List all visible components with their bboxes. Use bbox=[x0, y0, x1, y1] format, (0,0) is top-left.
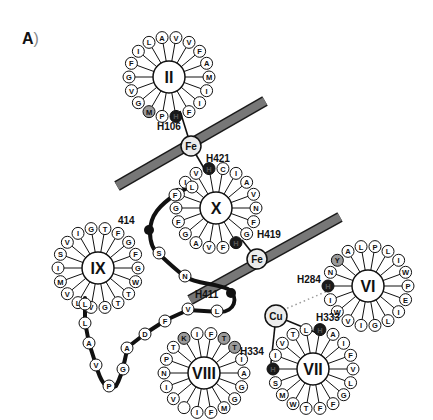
svg-text:L: L bbox=[386, 247, 391, 256]
residue: G bbox=[170, 202, 182, 214]
residue: I bbox=[72, 227, 84, 239]
residue: G bbox=[236, 381, 248, 393]
residue: G bbox=[241, 228, 253, 240]
svg-text:A: A bbox=[241, 369, 247, 378]
svg-text:D: D bbox=[142, 330, 148, 339]
svg-text:V: V bbox=[171, 395, 176, 404]
residue: G bbox=[99, 301, 111, 313]
svg-text:G: G bbox=[372, 321, 378, 330]
residue: N bbox=[158, 367, 170, 379]
svg-text:S: S bbox=[58, 250, 63, 259]
loop-residue: V bbox=[90, 359, 102, 371]
svg-text:F: F bbox=[173, 191, 178, 200]
residue: F bbox=[205, 406, 217, 418]
residue: G bbox=[132, 262, 144, 274]
svg-text:T: T bbox=[291, 330, 296, 339]
residue: V bbox=[276, 337, 288, 349]
label-h411: H411 bbox=[195, 289, 219, 300]
svg-text:Fe: Fe bbox=[251, 254, 263, 265]
svg-text:P: P bbox=[405, 282, 410, 291]
svg-text:L: L bbox=[386, 317, 391, 326]
svg-text:Fe: Fe bbox=[185, 141, 197, 152]
loop-residue: L bbox=[186, 181, 198, 193]
residue: T bbox=[112, 297, 124, 309]
residue: I bbox=[191, 328, 203, 340]
svg-text:V: V bbox=[350, 365, 355, 374]
residue: W bbox=[400, 266, 412, 278]
svg-text:H: H bbox=[206, 165, 211, 174]
svg-text:V: V bbox=[185, 305, 190, 314]
svg-text:F: F bbox=[197, 47, 202, 56]
residue: I bbox=[393, 254, 405, 266]
residue: N bbox=[324, 266, 336, 278]
svg-text:G: G bbox=[88, 225, 94, 234]
svg-text:V: V bbox=[280, 339, 285, 348]
label-r414: 414 bbox=[118, 215, 135, 226]
residue: L bbox=[300, 324, 312, 336]
svg-text:L: L bbox=[304, 326, 309, 335]
residue: T bbox=[229, 341, 241, 353]
svg-text:F: F bbox=[129, 59, 134, 68]
residue: F bbox=[172, 216, 184, 228]
residue: M bbox=[143, 106, 155, 118]
svg-text:T: T bbox=[232, 343, 237, 352]
residue: I bbox=[230, 167, 242, 179]
svg-text:A: A bbox=[124, 344, 130, 353]
residue: F bbox=[183, 106, 195, 118]
residue bbox=[178, 402, 190, 414]
label-h334: H334 bbox=[240, 346, 264, 357]
svg-text:F: F bbox=[163, 317, 168, 326]
helix-ii: IIVVFAMIIFHPMGVGFILA bbox=[123, 32, 215, 123]
residue: T bbox=[123, 288, 135, 300]
svg-text:I: I bbox=[199, 99, 201, 108]
svg-text:L: L bbox=[359, 243, 364, 252]
svg-text:Y: Y bbox=[335, 256, 340, 265]
svg-text:I: I bbox=[235, 169, 237, 178]
svg-text:V: V bbox=[173, 34, 178, 43]
helix-vii: VIIHAIFVLGFFTWMSHIVTL bbox=[267, 324, 359, 415]
residue: H bbox=[314, 324, 326, 336]
residue: A bbox=[241, 176, 253, 188]
residue: F bbox=[130, 248, 142, 260]
svg-text:E: E bbox=[403, 296, 408, 305]
svg-text:G: G bbox=[239, 383, 245, 392]
svg-text:I: I bbox=[398, 308, 400, 317]
residue: A bbox=[201, 57, 213, 69]
svg-text:F: F bbox=[221, 243, 226, 252]
membrane-topology-diagram: IIVVFAMIIFHPMGVGFILAXCIAVNFGHFVAGFGIIVHI… bbox=[0, 0, 433, 420]
residue: H bbox=[267, 363, 279, 375]
helix-x: XCIAVNFGHFVAGFGIIVH bbox=[170, 163, 262, 254]
svg-text:N: N bbox=[182, 272, 187, 281]
svg-text:A: A bbox=[159, 34, 165, 43]
residue: F bbox=[327, 398, 339, 410]
helical-wheels: IIVVFAMIIFHPMGVGFILAXCIAVNFGHFVAGFGIIVHI… bbox=[52, 32, 414, 419]
svg-text:I: I bbox=[165, 383, 167, 392]
residue: F bbox=[125, 57, 137, 69]
residue: L bbox=[345, 377, 357, 389]
svg-text:I: I bbox=[137, 47, 139, 56]
svg-text:V: V bbox=[207, 243, 212, 252]
residue: Y bbox=[331, 254, 343, 266]
residue: T bbox=[99, 223, 111, 235]
svg-text:W: W bbox=[132, 278, 140, 287]
svg-text:T: T bbox=[126, 290, 131, 299]
residue: A bbox=[327, 328, 339, 340]
svg-text:G: G bbox=[244, 230, 250, 239]
residue: T bbox=[300, 402, 312, 414]
svg-text:V: V bbox=[251, 190, 256, 199]
residue: P bbox=[160, 353, 172, 365]
residue: G bbox=[369, 319, 381, 331]
label-h421: H421 bbox=[206, 153, 230, 164]
loop-residue: A bbox=[83, 337, 95, 349]
svg-text:S: S bbox=[273, 379, 278, 388]
residue: V bbox=[248, 188, 260, 200]
helix-label: II bbox=[165, 69, 174, 86]
residue: I bbox=[191, 406, 203, 418]
label-h333: H333 bbox=[316, 312, 340, 323]
residue: H bbox=[203, 163, 215, 175]
residue: V bbox=[167, 393, 179, 405]
loop-residue: N bbox=[179, 270, 191, 282]
svg-text:G: G bbox=[135, 99, 141, 108]
residue: F bbox=[345, 349, 357, 361]
residue: I bbox=[355, 319, 367, 331]
